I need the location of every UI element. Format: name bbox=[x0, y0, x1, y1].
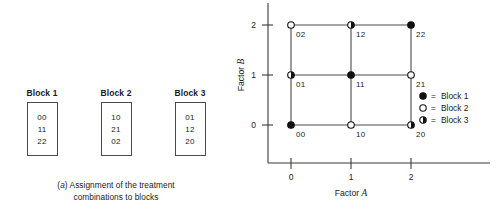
data-point-label: 10 bbox=[356, 130, 366, 139]
legend-marker-open-icon bbox=[420, 105, 426, 111]
data-point-20[interactable]: 20 bbox=[408, 122, 426, 139]
data-point-label: 21 bbox=[416, 80, 426, 89]
legend-equals-sign: = bbox=[431, 103, 436, 113]
x-axis-title: Factor A bbox=[335, 188, 368, 198]
block-group-3: Block 3 01 12 20 bbox=[158, 88, 222, 156]
data-point-label: 00 bbox=[296, 130, 306, 139]
data-point-label: 20 bbox=[416, 130, 426, 139]
treatment-combination: 10 bbox=[111, 112, 120, 124]
data-point-12[interactable]: 12 bbox=[348, 22, 366, 39]
block-box: 01 12 20 bbox=[175, 102, 206, 156]
data-point-00[interactable]: 00 bbox=[288, 122, 306, 139]
block-group-2: Block 2 10 21 02 bbox=[84, 88, 148, 156]
data-point-label: 22 bbox=[416, 30, 426, 39]
y-axis-title-prefix: Factor bbox=[236, 64, 246, 91]
x-tick-label-0: 0 bbox=[289, 172, 294, 182]
x-axis-title-prefix: Factor bbox=[335, 188, 362, 198]
treatment-combination: 11 bbox=[38, 124, 47, 136]
block-title: Block 1 bbox=[10, 88, 74, 98]
treatment-combination: 02 bbox=[111, 136, 120, 148]
y-tick-label-2: 2 bbox=[251, 20, 256, 30]
data-point-10[interactable]: 10 bbox=[348, 122, 366, 139]
block-box: 10 21 02 bbox=[101, 102, 132, 156]
legend-label: Block 1 bbox=[441, 91, 469, 101]
legend: = Block 1 = Block 2 = Block 3 bbox=[420, 91, 469, 125]
y-tick-label-1: 1 bbox=[251, 70, 256, 80]
caption-line-1: Assignment of the treatment bbox=[70, 180, 175, 190]
caption-letter: a bbox=[60, 180, 65, 190]
y-axis-title-symbol: B bbox=[236, 58, 246, 64]
x-axis-title-symbol: A bbox=[361, 188, 368, 198]
panel-geometric-view: 2 1 0 0 1 2 02 12 22 bbox=[232, 0, 498, 214]
data-point-label: 12 bbox=[356, 30, 366, 39]
treatment-combination: 01 bbox=[185, 112, 194, 124]
panel-assignment-to-blocks: Block 1 00 11 22 Block 2 10 21 02 Block … bbox=[0, 0, 232, 214]
legend-item-block-1[interactable]: = Block 1 bbox=[420, 91, 469, 101]
treatment-combination: 00 bbox=[37, 112, 46, 124]
block-box: 00 11 22 bbox=[27, 102, 58, 156]
legend-marker-filled-icon bbox=[420, 93, 426, 99]
legend-label: Block 3 bbox=[441, 115, 469, 125]
caption-line-2: combinations to blocks bbox=[73, 192, 158, 202]
treatment-combination: 21 bbox=[111, 124, 120, 136]
block-group-1: Block 1 00 11 22 bbox=[10, 88, 74, 156]
geometric-view-plot: 2 1 0 0 1 2 02 12 22 bbox=[232, 0, 498, 200]
treatment-combination: 12 bbox=[185, 124, 194, 136]
block-title: Block 3 bbox=[158, 88, 222, 98]
data-point-label: 01 bbox=[296, 80, 306, 89]
legend-label: Block 2 bbox=[441, 103, 469, 113]
treatment-combination: 22 bbox=[37, 136, 46, 148]
data-point-label: 02 bbox=[296, 30, 306, 39]
data-point-02[interactable]: 02 bbox=[288, 22, 306, 39]
block-title: Block 2 bbox=[84, 88, 148, 98]
data-point-21[interactable]: 21 bbox=[408, 72, 426, 89]
legend-item-block-3[interactable]: = Block 3 bbox=[420, 115, 469, 125]
y-axis-title: Factor B bbox=[236, 58, 246, 91]
data-point-22[interactable]: 22 bbox=[408, 22, 426, 39]
treatment-combination: 20 bbox=[185, 136, 194, 148]
x-tick-label-2: 2 bbox=[409, 172, 414, 182]
y-tick-label-0: 0 bbox=[251, 120, 256, 130]
x-tick-label-1: 1 bbox=[349, 172, 354, 182]
data-point-label: 11 bbox=[356, 80, 365, 89]
legend-equals-sign: = bbox=[431, 91, 436, 101]
caption-panel-a: (a) Assignment of the treatmentcombinati… bbox=[14, 180, 218, 203]
data-point-11[interactable]: 11 bbox=[348, 72, 365, 89]
data-point-01[interactable]: 01 bbox=[288, 72, 306, 89]
legend-equals-sign: = bbox=[431, 115, 436, 125]
legend-item-block-2[interactable]: = Block 2 bbox=[420, 103, 469, 113]
